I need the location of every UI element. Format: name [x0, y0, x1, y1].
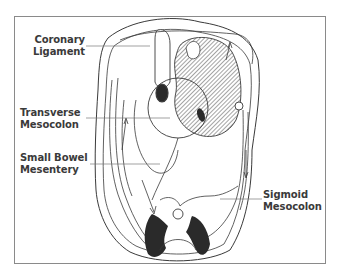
left-gutter-line-2: [116, 78, 152, 244]
mesentery-loop: [134, 100, 178, 173]
liver-bare-area: [155, 30, 170, 88]
label-line: Transverse: [20, 107, 80, 119]
left-pelvic-dark-region: [145, 214, 168, 257]
label-sigmoid-mesocolon: Sigmoid Mesocolon: [263, 189, 322, 213]
small-ring: [235, 102, 243, 110]
sigmoid-mesocolon-loop: [160, 186, 238, 206]
right-pelvic-dark-region: [186, 216, 210, 255]
hatched-organ-region: [175, 37, 241, 136]
rectum-ring: [173, 209, 183, 219]
vessel-section: [156, 84, 168, 102]
label-line: Mesentery: [20, 164, 88, 176]
arrow-down-pelvis: [142, 180, 156, 214]
label-line: Coronary: [33, 34, 85, 46]
label-line: Mesocolon: [20, 119, 80, 131]
label-coronary-ligament: Coronary Ligament: [33, 34, 85, 58]
arrow-left-up: [122, 118, 128, 150]
label-transverse-mesocolon: Transverse Mesocolon: [20, 107, 80, 131]
label-small-bowel-mesentery: Small Bowel Mesentery: [20, 152, 88, 176]
label-line: Small Bowel: [20, 152, 88, 164]
label-line: Sigmoid: [263, 189, 322, 201]
label-line: Mesocolon: [263, 201, 322, 213]
left-gutter-line-3: [122, 100, 132, 196]
duodenum-loop: [186, 41, 200, 58]
small-bowel-mesentery-root: [152, 138, 178, 200]
label-line: Ligament: [33, 46, 85, 58]
